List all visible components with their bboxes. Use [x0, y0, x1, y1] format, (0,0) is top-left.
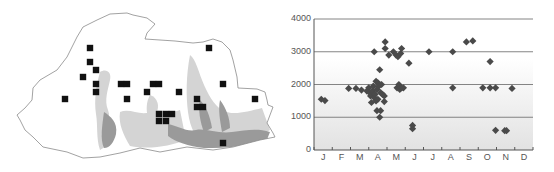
record-square — [194, 104, 200, 110]
record-square — [80, 74, 86, 80]
record-square — [93, 81, 99, 87]
record-square — [206, 45, 212, 51]
y-tick-label: 0 — [281, 144, 311, 154]
record-square — [150, 81, 156, 87]
x-tick-label: A — [371, 152, 385, 162]
record-square — [252, 96, 258, 102]
record-square — [87, 59, 93, 65]
record-square — [87, 45, 93, 51]
y-tick-label: 2000 — [281, 79, 311, 89]
x-tick-label: N — [499, 152, 513, 162]
x-tick-label: J — [316, 152, 330, 162]
record-square — [118, 81, 124, 87]
y-tick-label: 4000 — [281, 13, 311, 23]
distribution-map — [0, 0, 290, 172]
record-square — [62, 96, 68, 102]
y-tick-label: 1000 — [281, 111, 311, 121]
record-square — [144, 89, 150, 95]
record-square — [220, 140, 226, 146]
x-tick-label: O — [480, 152, 494, 162]
terrain-shading — [95, 55, 270, 150]
x-tick-label: A — [444, 152, 458, 162]
record-square — [163, 118, 169, 124]
x-tick-label: J — [407, 152, 421, 162]
record-square — [220, 81, 226, 87]
record-square — [156, 81, 162, 87]
record-square — [124, 96, 130, 102]
x-tick-label: M — [353, 152, 367, 162]
record-square — [93, 89, 99, 95]
x-tick-label: D — [517, 152, 531, 162]
record-square — [194, 96, 200, 102]
x-tick-label: F — [334, 152, 348, 162]
record-square — [163, 111, 169, 117]
record-square — [176, 89, 182, 95]
record-square — [156, 118, 162, 124]
x-tick-label: S — [462, 152, 476, 162]
x-tick-label: J — [426, 152, 440, 162]
record-square — [156, 111, 162, 117]
x-tick-label: M — [389, 152, 403, 162]
record-square — [124, 81, 130, 87]
y-tick-label: 3000 — [281, 46, 311, 56]
record-square — [169, 111, 175, 117]
altitude-by-month-chart: 01000200030004000 JFMAMJJASOND — [290, 0, 554, 172]
record-square — [93, 67, 99, 73]
record-square — [200, 104, 206, 110]
scatter-plot — [290, 0, 554, 172]
